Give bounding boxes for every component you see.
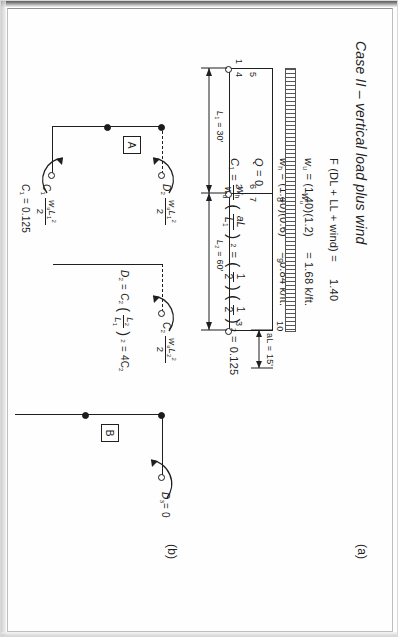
result-D2-C-sub: 2 [118,301,125,305]
result-D2-value-sub: 2 [118,368,125,372]
moment-label-D3: D3= 0 [159,492,171,518]
figure-canvas: Case II – vertical load plus wind (a) (b… [7,8,391,630]
result-D2-C: C [119,293,130,300]
result-D2-exponent: 2 [120,339,127,343]
dimension-L2-label: L2 = 60' [214,240,225,272]
bay-b-moment-arrow [7,8,181,630]
dimension-L2-arrows [191,8,391,630]
result-C1-subscript: 1 [19,191,26,195]
L2-value: = 60' [215,251,225,272]
scan-edge-left [0,0,6,637]
L2-subscript: 2 [214,245,220,248]
moment-diagram: A C1 wuL12 2 D2 wuL12 [7,8,181,630]
scanned-page: Case II – vertical load plus wind (a) (b… [0,0,398,637]
scan-edge-bottom [0,632,398,637]
result-D2-value: 4C [119,355,130,368]
result-D2-equals: = [118,284,129,290]
result-C1: C1 = 0.125 [19,184,31,233]
frame-diagram: wu 1 2 3 4 5 6 7 8 9 10 [191,8,391,630]
result-D2-equals-2: = [118,346,129,352]
result-D2: D2 = C2 ( L2 L1 )2 = 4C2 [112,270,135,372]
scan-edge-top [0,0,398,7]
result-D2-ratio: L2 L1 [112,315,135,328]
result-D2-L2-sub: 2 [124,323,130,326]
result-C1-value: = 0.125 [20,198,31,233]
D3-value: = 0 [160,503,171,518]
result-D2-L1-sub: 1 [113,323,119,326]
result-D2-subscript: 2 [118,277,125,281]
